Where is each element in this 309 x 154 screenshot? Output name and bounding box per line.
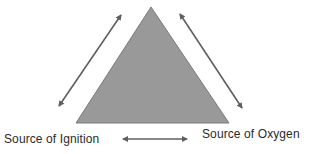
source-of-ignition-label: Source of Ignition	[4, 132, 99, 146]
triangle	[76, 7, 229, 123]
source-of-oxygen-label: Source of Oxygen	[202, 127, 300, 141]
